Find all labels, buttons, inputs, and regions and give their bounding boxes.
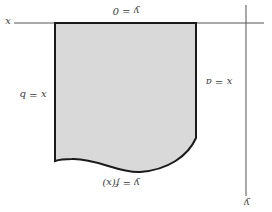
top-boundary-label: y = 0 [112, 6, 140, 17]
shaded-region [55, 23, 196, 172]
region-diagram: x y y = 0 x = b x = a y = f(x) [0, 0, 272, 212]
left-boundary-label: x = b [20, 90, 47, 101]
y-axis-label: y [244, 198, 251, 209]
right-boundary-label: x = a [206, 77, 232, 88]
x-axis-label: x [5, 17, 11, 28]
bottom-boundary-label: y = f(x) [102, 178, 141, 189]
